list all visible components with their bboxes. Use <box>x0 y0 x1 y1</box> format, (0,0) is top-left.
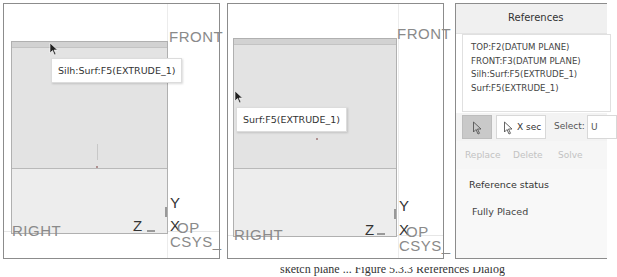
mouse-cursor-icon <box>49 42 59 56</box>
reference-item[interactable]: Surf:F5(EXTRUDE_1) <box>471 82 602 96</box>
origin-mark <box>316 138 318 140</box>
axis-z-label: Z <box>133 217 142 234</box>
selection-toolbar: X sec Select: U <box>456 113 607 141</box>
select-label: Select: <box>554 121 585 131</box>
dialog-header[interactable]: References <box>456 4 607 34</box>
vertical-scroll-handle[interactable] <box>394 209 396 219</box>
reference-status-section: Reference status Fully Placed <box>456 169 607 258</box>
reference-item[interactable]: FRONT:F3(DATUM PLANE) <box>471 55 602 69</box>
reference-item[interactable]: TOP:F2(DATUM PLANE) <box>471 41 602 55</box>
right-plane-label: RIGHT <box>234 226 283 243</box>
front-plane-label: FRONT <box>169 28 223 45</box>
hover-tooltip: Silh:Surf:F5(EXTRUDE_1) <box>51 58 182 83</box>
sketch-viewport-panel-2: FRONT RIGHT Y Z X OP CSYS_ Surf:F5(EXTRU… <box>227 3 444 259</box>
horizontal-scroll-handle[interactable] <box>377 233 385 235</box>
solve-button[interactable]: Solve <box>558 150 583 160</box>
part-top-edge <box>12 42 167 48</box>
action-buttons-row: Replace Delete Solve <box>456 141 607 169</box>
axis-y-label: Y <box>399 197 409 214</box>
front-plane-label: FRONT <box>397 25 451 42</box>
xsec-label: X sec <box>517 122 541 132</box>
datum-front-line <box>398 4 399 258</box>
horizontal-scroll-handle[interactable] <box>147 230 155 232</box>
arrow-cursor-icon <box>472 121 483 135</box>
center-line <box>97 144 98 160</box>
sketch-viewport-panel-1: FRONT RIGHT Y Z X OP CSYS_ Silh:Surf:F5(… <box>3 3 220 259</box>
csys-label: CSYS_ <box>170 233 222 250</box>
arrow-cursor-icon <box>503 121 514 135</box>
reference-status-title: Reference status <box>469 179 549 190</box>
references-list[interactable]: TOP:F2(DATUM PLANE) FRONT:F3(DATUM PLANE… <box>462 34 611 112</box>
references-dialog: References TOP:F2(DATUM PLANE) FRONT:F3(… <box>455 3 607 259</box>
replace-button[interactable]: Replace <box>465 150 501 160</box>
select-filter-dropdown[interactable]: U <box>587 115 617 139</box>
xsec-button[interactable]: X sec <box>496 115 546 139</box>
reference-item[interactable]: Silh:Surf:F5(EXTRUDE_1) <box>471 68 602 82</box>
part-top-edge <box>234 39 396 45</box>
select-reference-button[interactable] <box>462 115 492 139</box>
reference-status-value: Fully Placed <box>472 206 528 217</box>
figure-caption: sketch plane ... Figure 5.3.3 References… <box>280 262 505 277</box>
axis-z-label: Z <box>365 221 374 238</box>
hover-tooltip: Surf:F5(EXTRUDE_1) <box>236 107 347 132</box>
right-plane-label: RIGHT <box>12 222 61 239</box>
mouse-cursor-icon <box>234 90 244 104</box>
delete-button[interactable]: Delete <box>513 150 543 160</box>
csys-label: CSYS_ <box>399 237 451 254</box>
sketch-canvas[interactable] <box>233 38 397 237</box>
dialog-title: References <box>508 12 564 23</box>
axis-y-label: Y <box>170 194 180 211</box>
vertical-scroll-handle[interactable] <box>165 207 167 217</box>
